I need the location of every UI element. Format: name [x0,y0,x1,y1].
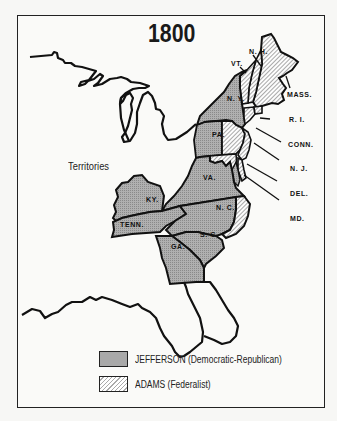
label-conn: CONN. [288,141,314,148]
territories-label: Territories [68,160,109,172]
label-del: DEL. [290,190,308,197]
atlantic-coast [204,282,238,344]
legend-label-jefferson: JEFFERSON (Democratic-Republican) [135,354,282,365]
state-conn [244,107,255,124]
label-ky: KY. [146,196,159,203]
label-ga: GA. [171,243,185,250]
label-ri: R. I. [289,116,305,123]
label-md: MD. [290,215,305,222]
label-va: VA. [203,174,216,181]
label-mass: MASS. [287,91,312,98]
florida-coastline [22,282,203,357]
label-nj: N. J. [290,165,308,172]
label-sc: S. C. [200,231,219,238]
label-pa: PA. [212,131,225,138]
great-lakes-coastline [30,52,196,142]
adams-swatch [99,376,128,392]
jefferson-swatch [99,351,128,367]
legend-item-jefferson: JEFFERSON (Democratic-Republican) [99,351,308,367]
label-nc: N. C. [216,204,235,211]
label-nh: N. H. [249,48,268,55]
legend-item-adams: ADAMS (Federalist) [99,376,224,392]
legend-label-adams: ADAMS (Federalist) [135,379,211,390]
label-tenn: TENN. [120,221,144,228]
state-ri [254,106,262,114]
label-vt: VT. [231,60,243,67]
state-pa-jefferson [194,121,222,158]
label-ny: N. Y. [227,95,245,102]
